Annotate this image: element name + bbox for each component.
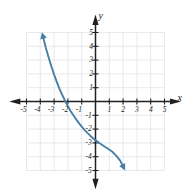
x-tick-label-neg4: -4 (34, 106, 40, 114)
x-tick-label-pos1: 1 (108, 106, 112, 114)
x-tick-label-pos4: 4 (149, 106, 153, 114)
y-tick-label-neg4: -4 (86, 153, 92, 161)
y-tick-label-pos3: 3 (89, 56, 93, 64)
coordinate-plane (0, 0, 194, 190)
y-tick-label-pos1: 1 (89, 84, 93, 92)
x-tick-label-neg1: -1 (76, 106, 82, 114)
y-tick-label-pos4: 4 (89, 43, 93, 51)
y-tick-label-neg3: -3 (86, 139, 92, 147)
graph-figure: -5-4-3-2-11234554321-1-2-3-4-5 x y (0, 0, 194, 190)
x-tick-label-pos5: 5 (163, 106, 167, 114)
y-tick-label-neg1: -1 (86, 112, 92, 120)
x-tick-label-pos2: 2 (121, 106, 125, 114)
x-tick-label-neg3: -3 (48, 106, 54, 114)
x-tick-label-neg5: -5 (21, 106, 27, 114)
x-axis-label: x (178, 93, 182, 103)
x-tick-label-pos3: 3 (135, 106, 139, 114)
axes (9, 15, 181, 190)
y-tick-label-pos2: 2 (89, 70, 93, 78)
x-tick-label-neg2: -2 (62, 106, 68, 114)
y-axis-label: y (99, 11, 103, 21)
y-tick-label-neg5: -5 (86, 167, 92, 175)
y-tick-label-pos5: 5 (89, 29, 93, 37)
y-tick-label-neg2: -2 (86, 125, 92, 133)
